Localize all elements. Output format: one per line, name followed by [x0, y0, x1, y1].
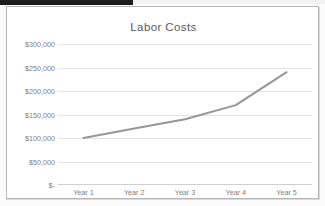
- top-dark-band: [0, 0, 133, 5]
- y-axis-tick-label: $100,000: [25, 134, 55, 143]
- x-axis-tick-label: Year 5: [276, 188, 297, 197]
- x-axis-labels: Year 1 Year 2 Year 3 Year 4 Year 5: [58, 188, 312, 202]
- x-axis-tick-label: Year 3: [175, 188, 196, 197]
- plot-area: [58, 44, 312, 185]
- data-series-line: [58, 44, 312, 185]
- frame-shadow-right: [319, 7, 320, 200]
- y-axis-tick-label: $250,000: [25, 63, 55, 72]
- chart-container[interactable]: Labor Costs $300,000 $250,000 $200,000 $…: [6, 6, 319, 199]
- top-light-band: [133, 0, 325, 4]
- x-axis-tick-label: Year 2: [124, 188, 145, 197]
- y-axis-tick-label: $300,000: [25, 40, 55, 49]
- chart-screenshot: Labor Costs $300,000 $250,000 $200,000 $…: [0, 0, 325, 206]
- y-axis-labels: $300,000 $250,000 $200,000 $150,000 $100…: [7, 44, 55, 185]
- y-axis-tick-label: $50,000: [29, 157, 55, 166]
- y-axis-tick-label: $150,000: [25, 110, 55, 119]
- x-axis-tick-label: Year 4: [226, 188, 247, 197]
- x-axis-tick-label: Year 1: [73, 188, 94, 197]
- y-axis-tick-label: $-: [49, 181, 55, 190]
- chart-title: Labor Costs: [7, 21, 320, 33]
- y-axis-tick-label: $200,000: [25, 87, 55, 96]
